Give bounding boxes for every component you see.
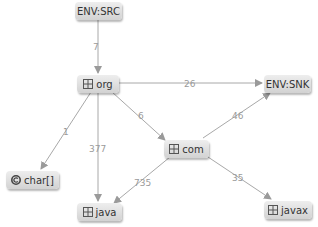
node-org[interactable]: org [77,75,119,93]
node-char-array[interactable]: char[] [6,171,59,189]
node-label: java [96,207,117,218]
edge-label-org-to-char: 1 [63,127,69,137]
edge-label-org-to-java: 377 [89,144,106,154]
node-label: ENV:SNK [266,79,310,90]
node-com[interactable]: com [164,140,209,158]
edge-label-com-to-javax: 35 [232,173,243,183]
edge-label-org-to-env-snk: 26 [184,79,196,89]
node-env-src[interactable]: ENV:SRC [75,2,122,20]
node-env-snk[interactable]: ENV:SNK [264,75,311,93]
node-javax[interactable]: javax [264,201,312,219]
package-icon [268,205,278,215]
package-icon [83,79,93,89]
edge-label-org-to-com: 6 [138,111,144,121]
node-label: com [182,144,203,155]
edges-layer: 7 26 46 6 1 377 735 35 [0,0,318,227]
node-label: char[] [24,175,54,186]
package-icon [169,144,179,154]
node-label: javax [281,205,308,216]
node-label: org [96,79,112,90]
dependency-graph: 7 26 46 6 1 377 735 35 ENV:SRC org ENV:S… [0,0,318,227]
node-java[interactable]: java [77,203,122,221]
class-icon [11,175,21,185]
package-icon [83,207,93,217]
edge-label-env-src-to-org: 7 [93,42,99,52]
edge-label-com-to-env-snk: 46 [232,111,244,121]
node-label: ENV:SRC [77,6,120,17]
edge-label-com-to-java: 735 [134,178,151,188]
